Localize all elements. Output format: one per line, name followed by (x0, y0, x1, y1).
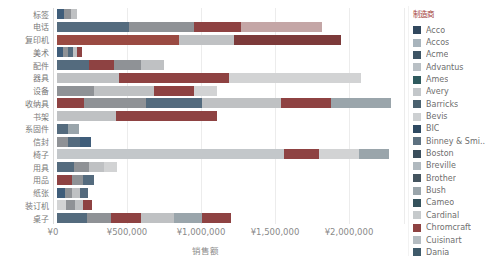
bar-segment[interactable] (57, 175, 72, 185)
bar-segment[interactable] (202, 213, 231, 223)
legend-item-acme[interactable]: Acme (413, 49, 486, 61)
bar-segment[interactable] (80, 188, 88, 198)
legend-item-bevis[interactable]: Bevis (413, 110, 486, 122)
bar-segment[interactable] (241, 22, 322, 32)
bar-segment[interactable] (89, 60, 114, 70)
legend-label: Boston (426, 149, 454, 158)
bar-segment[interactable] (174, 213, 202, 223)
legend-item-brother[interactable]: Brother (413, 172, 486, 184)
category-label[interactable]: 标签 (0, 9, 53, 20)
category-label[interactable]: 书架 (0, 111, 53, 122)
legend-item-breville[interactable]: Breville (413, 160, 486, 172)
category-label[interactable]: 设备 (0, 85, 53, 96)
legend-item-boston[interactable]: Boston (413, 147, 486, 159)
category-label[interactable]: 美术 (0, 47, 53, 58)
bar-row-桌子: 桌子 (0, 212, 405, 224)
bar-segment[interactable] (57, 73, 119, 83)
bar-segment[interactable] (57, 35, 179, 45)
legend-item-cameo[interactable]: Cameo (413, 197, 486, 209)
bar-segment[interactable] (57, 137, 68, 147)
bar-segment[interactable] (72, 188, 80, 198)
category-label[interactable]: 收纳具 (0, 98, 53, 109)
bar-segment[interactable] (119, 73, 229, 83)
bar-segment[interactable] (57, 124, 68, 134)
legend-item-ames[interactable]: Ames (413, 73, 486, 85)
bar-segment[interactable] (284, 149, 319, 159)
bar-row-复印机: 复印机 (0, 34, 405, 46)
legend-item-bush[interactable]: Bush (413, 184, 486, 196)
bar-segment[interactable] (141, 213, 174, 223)
category-label[interactable]: 桌子 (0, 213, 53, 224)
bar-segment[interactable] (57, 188, 65, 198)
bar-segment[interactable] (141, 60, 164, 70)
bar-segment[interactable] (114, 60, 141, 70)
bar-segment[interactable] (194, 22, 241, 32)
bar-segment[interactable] (331, 98, 391, 108)
bar-segment[interactable] (68, 124, 79, 134)
bar-segment[interactable] (71, 9, 77, 19)
legend-item-binney-smi-[interactable]: Binney & Smi.. (413, 135, 486, 147)
bar-segment[interactable] (129, 22, 194, 32)
legend-item-barricks[interactable]: Barricks (413, 98, 486, 110)
category-label[interactable]: 信封 (0, 136, 53, 147)
bar-segment[interactable] (154, 86, 194, 96)
bar-segment[interactable] (57, 9, 64, 19)
bar-segment[interactable] (194, 86, 217, 96)
chart-plot-area: 标签电话复印机美术配件器具设备收纳具书架系固件信封椅子用具用品纸张装订机桌子 ¥… (0, 8, 405, 252)
bar-segment[interactable] (68, 137, 80, 147)
bar-segment[interactable] (84, 98, 146, 108)
legend-item-cuisinart[interactable]: Cuisinart (413, 234, 486, 246)
bar-segment[interactable] (57, 86, 94, 96)
category-label[interactable]: 系固件 (0, 123, 53, 134)
bar-segment[interactable] (116, 111, 217, 121)
bar-segment[interactable] (83, 200, 92, 210)
bar-segment[interactable] (75, 200, 83, 210)
bar-segment[interactable] (77, 47, 82, 57)
category-label[interactable]: 椅子 (0, 149, 53, 160)
category-label[interactable]: 配件 (0, 60, 53, 71)
bar-segment[interactable] (74, 162, 89, 172)
bar-segment[interactable] (281, 98, 331, 108)
legend-item-avery[interactable]: Avery (413, 86, 486, 98)
bar-segment[interactable] (80, 137, 91, 147)
bar-segment[interactable] (111, 213, 141, 223)
bar-segment[interactable] (57, 149, 284, 159)
bar-segment[interactable] (89, 162, 104, 172)
bar-segment[interactable] (234, 35, 341, 45)
bar-segment[interactable] (57, 111, 116, 121)
bar-segment[interactable] (65, 188, 72, 198)
legend-item-chromcraft[interactable]: Chromcraft (413, 222, 486, 234)
bar-segment[interactable] (57, 60, 89, 70)
category-label[interactable]: 电话 (0, 21, 53, 32)
bar-segment[interactable] (57, 98, 84, 108)
bar-segment[interactable] (146, 98, 202, 108)
legend-item-dania[interactable]: Dania (413, 246, 486, 258)
bar-segment[interactable] (57, 162, 74, 172)
bar-segment[interactable] (57, 213, 87, 223)
bar-segment[interactable] (179, 35, 234, 45)
legend-item-cardinal[interactable]: Cardinal (413, 209, 486, 221)
bar-segment[interactable] (94, 86, 154, 96)
bar-segment[interactable] (229, 73, 361, 83)
bar-segment[interactable] (319, 149, 359, 159)
bar-segment[interactable] (57, 22, 129, 32)
bar-segment[interactable] (66, 200, 75, 210)
category-label[interactable]: 器具 (0, 72, 53, 83)
bar-segment[interactable] (72, 175, 83, 185)
bar-segment[interactable] (83, 175, 94, 185)
legend-item-acco[interactable]: Acco (413, 24, 486, 36)
category-label[interactable]: 用具 (0, 162, 53, 173)
bar-segment[interactable] (87, 213, 111, 223)
legend-item-bic[interactable]: BIC (413, 123, 486, 135)
bar-segment[interactable] (359, 149, 389, 159)
bar-segment[interactable] (64, 9, 71, 19)
legend-item-advantus[interactable]: Advantus (413, 61, 486, 73)
category-label[interactable]: 装订机 (0, 200, 53, 211)
bar-segment[interactable] (57, 200, 66, 210)
bar-segment[interactable] (104, 162, 117, 172)
category-label[interactable]: 纸张 (0, 187, 53, 198)
bar-segment[interactable] (202, 98, 281, 108)
legend-item-accos[interactable]: Accos (413, 36, 486, 48)
category-label[interactable]: 用品 (0, 174, 53, 185)
category-label[interactable]: 复印机 (0, 34, 53, 45)
